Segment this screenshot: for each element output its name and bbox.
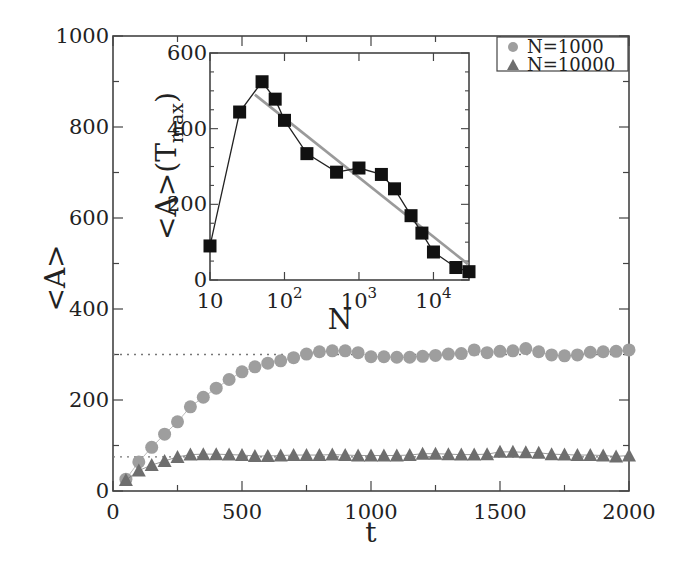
data-point-circle [623,343,636,356]
data-point-triangle [145,458,159,471]
data-point-circle [519,342,532,355]
inset-plot: 101021031040200400600 [167,41,476,313]
y-tick-label: 600 [69,206,109,230]
data-point-square [204,239,217,252]
data-point-circle [223,373,236,386]
data-point-circle [532,345,545,358]
data-point-square [233,106,246,119]
data-point-circle [145,441,158,454]
data-point-circle [287,351,300,364]
y-axis-title: <A> [39,244,72,311]
data-point-circle [584,346,597,359]
data-point-circle [339,344,352,357]
data-point-triangle [158,454,172,467]
data-point-triangle [325,448,339,461]
inset-x-tick-label: 10 [197,289,224,313]
legend: N=1000N=10000 [497,36,628,75]
data-point-circle [494,345,507,358]
data-point-circle [236,365,249,378]
chart-canvas: 050010001500200002004006008001000 101021… [0,0,688,572]
data-point-circle [274,354,287,367]
data-point-circle [481,346,494,359]
data-point-circle [468,343,481,356]
data-point-square [405,209,418,222]
inset-ylabel-close: ) [150,92,183,103]
y-tick-label: 1000 [56,24,109,48]
data-point-circle [248,360,261,373]
inset-ylabel-main: <A>(T [150,143,183,240]
y-tick-label: 200 [69,388,109,412]
y-tick-label: 800 [69,115,109,139]
x-tick-label: 2000 [602,500,655,524]
data-point-circle [313,345,326,358]
data-point-circle [326,344,339,357]
data-point-square [388,182,401,195]
inset-x-axis-title: N [328,303,353,336]
data-point-circle [300,348,313,361]
data-point-circle [442,348,455,361]
data-point-square [375,168,388,181]
data-point-square [269,93,282,106]
data-point-circle [390,351,403,364]
data-point-square [300,147,313,160]
y-tick-label: 400 [69,297,109,321]
data-point-circle [545,348,558,361]
data-point-square [463,265,476,278]
inset-x-tick-label: 102 [266,284,302,313]
legend-circle-icon [508,42,518,52]
x-tick-label: 500 [222,500,262,524]
inset-ylabel-sub: max [165,103,187,143]
data-point-circle [365,350,378,363]
data-point-square [330,166,343,179]
data-point-circle [261,357,274,370]
y-tick-label: 0 [96,479,109,503]
data-point-circle [455,347,468,360]
data-point-circle [210,382,223,395]
data-point-square [278,114,291,127]
data-point-circle [171,415,184,428]
data-point-square [256,75,269,88]
data-point-circle [429,349,442,362]
data-point-square [352,162,365,175]
data-point-circle [558,349,571,362]
x-tick-label: 1500 [473,500,526,524]
data-point-circle [610,345,623,358]
data-point-square [427,246,440,259]
data-point-circle [352,346,365,359]
legend-label: N=10000 [527,54,615,75]
data-point-circle [197,391,210,404]
x-tick-label: 0 [106,500,119,524]
data-point-square [415,227,428,240]
chart-figure: 050010001500200002004006008001000 101021… [0,0,688,572]
data-point-circle [158,428,171,441]
data-point-circle [597,345,610,358]
data-point-circle [377,350,390,363]
data-point-triangle [622,449,636,462]
inset-x-tick-label: 104 [415,284,451,313]
data-point-square [449,261,462,274]
data-point-circle [571,348,584,361]
inset-y-axis-title: <A>(Tmax) [150,92,187,240]
data-point-circle [403,351,416,364]
x-axis-title: t [365,516,377,549]
data-point-circle [506,344,519,357]
data-point-circle [416,350,429,363]
inset-y-tick-label: 0 [194,268,207,292]
data-point-circle [184,400,197,413]
inset-y-tick-label: 600 [167,41,207,65]
